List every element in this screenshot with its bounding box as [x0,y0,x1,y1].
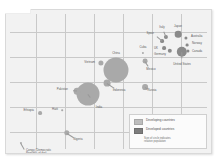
label-leader-line [67,133,74,138]
bubble-ethiopia[interactable] [38,111,42,115]
legend-label-developed: Developed countries [146,128,174,132]
bubble-label-india: India [96,106,102,109]
legend-label-developing: Developing countries [146,119,175,123]
legend-swatch-developing-icon [134,119,143,125]
bubble-label-china: China [112,52,120,55]
bubble-label-vietnam: Vietnam [84,61,95,64]
gridline-horizontal [10,57,207,58]
bubble-label-spain: Spain [147,32,155,35]
legend-size-note: Size of circle indicates relative popula… [144,137,171,143]
bubble-label-italy: Italy [159,26,164,29]
bubble-chart-panel: ChinaIndiaVietnamIndonesiaPakistanRussia… [5,9,212,154]
legend-item-developed: Developed countries [134,128,174,134]
bubble-germany[interactable] [168,49,172,53]
bubble-label-cuba: Cuba [140,46,147,49]
legend-swatch-developed-icon [134,128,143,134]
bubble-japan[interactable] [175,31,182,38]
bubble-label-mexico: Mexico [146,68,155,71]
bubble-label-germany: Germany [154,53,166,56]
bubble-canada[interactable] [186,49,189,52]
bubble-label-united-states: United States [173,63,191,66]
chart-legend: Developing countries Developed countries… [129,114,207,149]
bubble-label-haiti: Haiti [52,108,58,111]
top-white-margin [0,0,217,9]
bubble-australia[interactable] [184,36,187,39]
bubble-label-congo-democratic-republic-of-the: Congo (Democratic Republic of the) [26,149,51,154]
label-leader-line [182,52,183,58]
bubble-label-canada: Canada [192,50,202,53]
bubble-label-japan: Japan [174,25,182,28]
legend-size-note-line2: relative population [144,140,166,143]
bubble-haiti[interactable] [61,109,63,111]
bubble-cuba[interactable] [142,52,144,54]
bubble-label-uk: UK [154,47,158,50]
gridline-horizontal [10,107,207,108]
bubble-uk[interactable] [162,46,166,50]
left-white-margin [0,0,5,163]
bubble-label-nigeria: Nigeria [73,138,82,141]
bubble-label-pakistan: Pakistan [57,88,68,91]
bubble-label-indonesia: Indonesia [113,89,126,92]
bubble-label-ethiopia: Ethiopia [23,109,34,112]
bubble-label-russia: Russia [148,89,157,92]
bubble-label-norway: Norway [192,42,202,45]
screenshot-root: ChinaIndiaVietnamIndonesiaPakistanRussia… [0,0,217,163]
bubble-label-australia: Australia [191,35,202,38]
label-leader-line [21,143,25,150]
legend-item-developing: Developing countries [134,119,175,125]
bubble-vietnam[interactable] [98,60,103,65]
plot-area: ChinaIndiaVietnamIndonesiaPakistanRussia… [6,10,211,153]
bubble-norway[interactable] [186,44,189,47]
